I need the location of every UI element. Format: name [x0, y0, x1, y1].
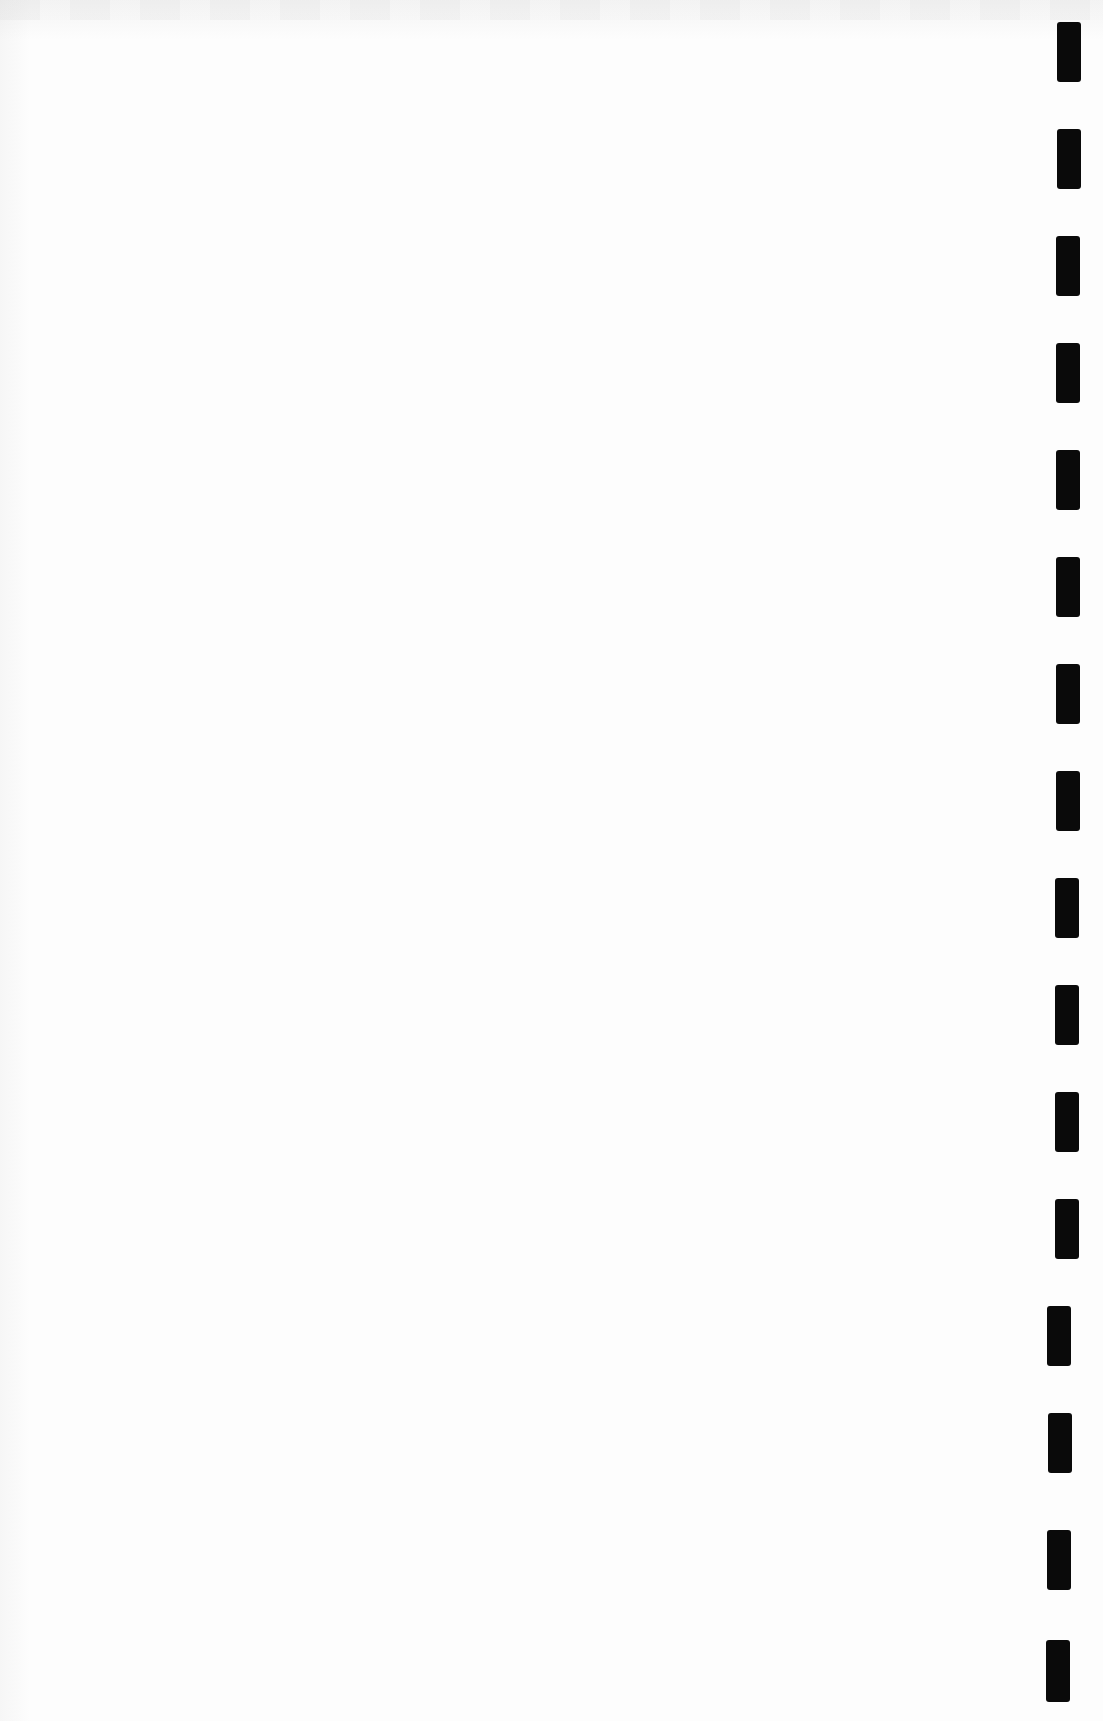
binding-mark [1056, 771, 1080, 831]
blank-page [0, 0, 1103, 1721]
binding-mark [1047, 1530, 1071, 1590]
binding-mark [1057, 129, 1081, 189]
binding-mark [1055, 985, 1079, 1045]
binding-mark [1046, 1640, 1070, 1702]
binding-mark [1056, 343, 1080, 403]
binding-mark [1055, 878, 1079, 938]
binding-mark [1048, 1413, 1072, 1473]
binding-mark [1056, 664, 1080, 724]
binding-mark [1055, 1092, 1079, 1152]
binding-mark [1057, 22, 1081, 82]
binding-mark [1055, 1199, 1079, 1259]
binding-mark [1056, 557, 1080, 617]
binding-mark [1056, 236, 1080, 296]
binding-mark [1056, 450, 1080, 510]
binding-marks-column [0, 0, 1103, 1721]
binding-mark [1047, 1306, 1071, 1366]
